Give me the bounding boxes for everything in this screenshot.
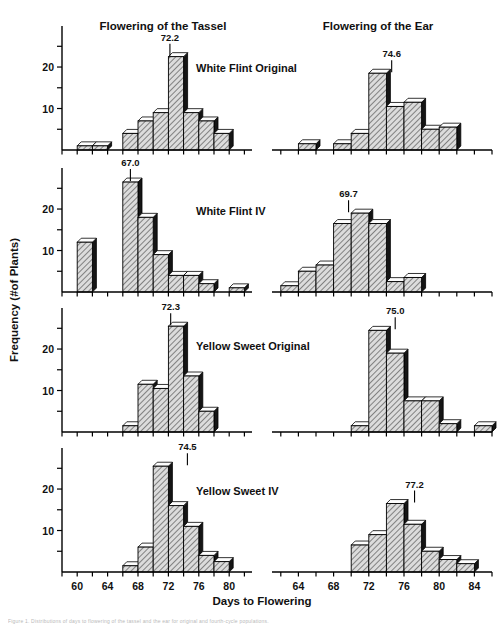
bar-front-face bbox=[386, 106, 404, 150]
bar-top-face bbox=[184, 271, 203, 275]
bar-top-face bbox=[404, 98, 426, 102]
x-axis-tick-label: 68 bbox=[328, 580, 340, 592]
histogram-bar bbox=[229, 284, 248, 292]
bar-top-face bbox=[351, 209, 373, 213]
bar-front-face bbox=[153, 255, 168, 292]
histogram-bar bbox=[199, 407, 218, 432]
x-axis-tick-label: 76 bbox=[193, 580, 205, 592]
header-tassel: Flowering of the Tassel bbox=[100, 20, 227, 32]
bar-top-face bbox=[123, 178, 142, 182]
bar-front-face bbox=[168, 57, 183, 150]
bar-top-face bbox=[184, 372, 203, 376]
mean-value-label: 69.7 bbox=[339, 188, 358, 199]
bar-top-face bbox=[153, 462, 172, 466]
bar-front-face bbox=[153, 466, 168, 572]
population-label: Yellow Sweet IV bbox=[196, 485, 279, 497]
bar-front-face bbox=[168, 275, 183, 292]
flowering-histogram-figure: Flowering of the TasselFlowering of the … bbox=[0, 0, 500, 625]
histogram-bar bbox=[474, 422, 496, 432]
mean-value-label: 77.2 bbox=[405, 479, 424, 490]
histogram-bar bbox=[77, 238, 96, 292]
bar-top-face bbox=[77, 238, 96, 242]
histogram-bar bbox=[199, 280, 218, 292]
bar-front-face bbox=[386, 504, 404, 572]
bar-front-face bbox=[404, 401, 422, 432]
bar-front-face bbox=[439, 560, 457, 572]
y-axis-tick-label: 20 bbox=[42, 483, 54, 495]
bar-top-face bbox=[422, 547, 444, 551]
bar-side-face bbox=[457, 123, 461, 150]
figure-container: Flowering of the TasselFlowering of the … bbox=[0, 0, 500, 625]
bar-front-face bbox=[138, 121, 153, 150]
bar-front-face bbox=[123, 566, 138, 572]
bar-front-face bbox=[351, 545, 369, 572]
header-ear: Flowering of the Ear bbox=[323, 20, 434, 32]
x-axis-tick-label: 64 bbox=[293, 580, 305, 592]
bar-top-face bbox=[229, 284, 248, 288]
x-axis-tick-label: 72 bbox=[363, 580, 375, 592]
bar-front-face bbox=[369, 224, 387, 292]
y-axis-tick-label: 20 bbox=[42, 343, 54, 355]
y-axis-title: Frequency (#of Plants) bbox=[8, 238, 20, 362]
bar-front-face bbox=[457, 564, 475, 572]
bar-top-face bbox=[168, 53, 187, 57]
histogram-bar bbox=[298, 140, 320, 150]
x-axis-tick-label: 68 bbox=[132, 580, 144, 592]
bar-front-face bbox=[298, 271, 316, 292]
bar-front-face bbox=[316, 265, 334, 292]
mean-value-label: 72.3 bbox=[161, 301, 180, 312]
bar-top-face bbox=[422, 397, 444, 401]
x-axis-tick-label: 84 bbox=[469, 580, 481, 592]
bar-front-face bbox=[184, 526, 199, 572]
bar-top-face bbox=[439, 556, 461, 560]
bar-front-face bbox=[422, 129, 440, 150]
bar-front-face bbox=[153, 388, 168, 432]
bar-front-face bbox=[386, 353, 404, 432]
bar-front-face bbox=[351, 133, 369, 150]
bar-front-face bbox=[138, 384, 153, 432]
bar-front-face bbox=[184, 275, 199, 292]
bar-front-face bbox=[138, 547, 153, 572]
bar-top-face bbox=[199, 117, 218, 121]
bar-top-face bbox=[184, 522, 203, 526]
bar-top-face bbox=[138, 213, 157, 217]
bar-front-face bbox=[168, 506, 183, 572]
bar-front-face bbox=[404, 277, 422, 292]
bar-front-face bbox=[153, 113, 168, 150]
bar-top-face bbox=[404, 520, 426, 524]
bar-top-face bbox=[457, 560, 479, 564]
y-axis-tick-label: 20 bbox=[42, 61, 54, 73]
population-label: White Flint IV bbox=[196, 205, 266, 217]
bar-top-face bbox=[386, 500, 408, 504]
bar-front-face bbox=[281, 286, 299, 292]
bar-front-face bbox=[138, 217, 153, 292]
mean-value-label: 75.0 bbox=[386, 305, 405, 316]
bar-front-face bbox=[334, 224, 352, 292]
bar-front-face bbox=[199, 284, 214, 292]
y-axis-tick-label: 10 bbox=[42, 245, 54, 257]
bar-front-face bbox=[123, 182, 138, 292]
bar-top-face bbox=[214, 558, 233, 562]
bar-front-face bbox=[422, 401, 440, 432]
bar-front-face bbox=[422, 551, 440, 572]
bar-front-face bbox=[439, 127, 457, 150]
bar-top-face bbox=[184, 109, 203, 113]
bar-front-face bbox=[184, 113, 199, 150]
bar-front-face bbox=[123, 133, 138, 150]
population-label: Yellow Sweet Original bbox=[196, 340, 310, 352]
histogram-bar bbox=[404, 273, 426, 292]
bar-front-face bbox=[404, 102, 422, 150]
bar-front-face bbox=[351, 426, 369, 432]
panel-row: 102072.375.0Yellow Sweet Original bbox=[42, 301, 496, 436]
panel-group: 102072.274.6White Flint Original102067.0… bbox=[42, 26, 496, 592]
bar-front-face bbox=[351, 213, 369, 292]
bar-top-face bbox=[199, 551, 218, 555]
bar-front-face bbox=[123, 426, 138, 432]
y-axis-tick-label: 10 bbox=[42, 525, 54, 537]
bar-front-face bbox=[334, 144, 352, 150]
population-label: White Flint Original bbox=[196, 62, 297, 74]
x-axis-tick-label: 80 bbox=[433, 580, 445, 592]
bar-top-face bbox=[439, 420, 461, 424]
panel-row: 102060646872768074.564687276808477.2Yell… bbox=[42, 441, 492, 592]
bar-top-face bbox=[199, 407, 218, 411]
